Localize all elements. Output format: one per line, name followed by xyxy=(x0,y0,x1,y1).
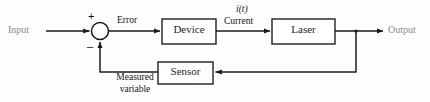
current-signal-label: Current xyxy=(224,17,253,27)
summing-junction-circle xyxy=(92,23,109,40)
output-branch-node xyxy=(354,29,357,32)
laser-block-label: Laser xyxy=(272,24,335,36)
sum-plus-sign: + xyxy=(88,11,94,23)
error-signal-label: Error xyxy=(117,16,137,26)
sum-minus-sign: – xyxy=(87,41,93,53)
measured-variable-line2: variable xyxy=(104,85,166,95)
sensor-block-label: Sensor xyxy=(158,66,213,78)
measured-variable-line1: Measured xyxy=(104,73,166,83)
current-symbol-label: i(t) xyxy=(236,5,248,15)
output-terminal-label: Output xyxy=(388,25,416,36)
device-block-label: Device xyxy=(162,24,216,36)
block-diagram-canvas: Input Output + – Error i(t) Current Devi… xyxy=(0,0,430,102)
input-terminal-label: Input xyxy=(8,25,29,36)
diagram-vector-layer xyxy=(0,0,430,102)
